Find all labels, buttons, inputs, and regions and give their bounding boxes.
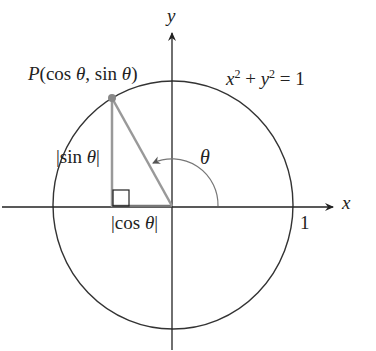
point-label-part: ) [131,63,137,84]
sin-label: |sin θ| [56,147,100,166]
x-axis-label: x [342,193,350,212]
point-label-part: , sin [85,63,121,84]
point-P [108,94,116,102]
cos-close: | [154,212,158,233]
point-theta: θ [122,63,131,84]
cos-label: |cos θ| [111,213,158,232]
diagram-graphics [0,0,376,351]
point-label: P(cos θ, sin θ) [28,64,137,83]
point-name: P [28,63,40,84]
unit-tick-label: 1 [300,213,310,232]
cos-text: |cos [111,212,145,233]
point-theta: θ [76,63,85,84]
sin-theta: θ [87,146,96,167]
y-axis-label: y [167,6,175,25]
right-angle-marker [113,190,129,206]
cos-theta: θ [145,212,154,233]
angle-theta-label: θ [200,147,210,167]
unit-circle [53,81,293,329]
eq-y: y [261,68,269,89]
sin-close: | [96,146,100,167]
circle-equation: x2 + y2 = 1 [226,68,305,88]
eq-rhs: = 1 [275,68,305,89]
unit-circle-diagram: y x P(cos θ, sin θ) x2 + y2 = 1 |sin θ| … [0,0,376,351]
point-label-part: (cos [40,63,76,84]
eq-plus: + [240,68,260,89]
sin-text: |sin [56,146,87,167]
